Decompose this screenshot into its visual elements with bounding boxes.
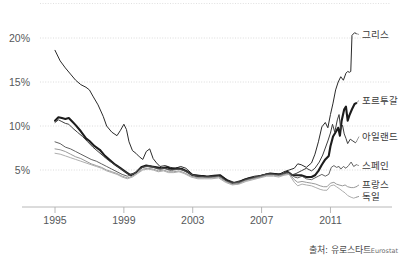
y-tick-label-5: 5% bbox=[15, 164, 30, 176]
series-label-3: 스페인 bbox=[362, 160, 389, 171]
series-label-5: 독일 bbox=[362, 191, 380, 202]
x-tick-label-2007: 2007 bbox=[250, 214, 274, 226]
series-label-2: 아일랜드 bbox=[362, 131, 398, 142]
series-group bbox=[55, 33, 356, 198]
source-note: 출처: 유로스타트Eurostat bbox=[309, 243, 398, 256]
series-leader-3 bbox=[356, 165, 359, 166]
series-leader-2 bbox=[356, 137, 359, 142]
x-tick-label-1999: 1999 bbox=[112, 214, 136, 226]
x-tick-label-2011: 2011 bbox=[319, 214, 342, 226]
series-label-0: 그리스 bbox=[362, 29, 389, 40]
series-label-1: 포르투갈 bbox=[362, 95, 398, 106]
y-tick-label-20: 20% bbox=[9, 32, 30, 44]
x-tick-label-2003: 2003 bbox=[181, 214, 205, 226]
source-label: 출처: 유로스타트 bbox=[309, 245, 371, 255]
series-leader-4 bbox=[356, 185, 359, 187]
y-tick-label-15: 15% bbox=[9, 76, 30, 88]
x-axis-group bbox=[22, 207, 392, 213]
chart-container: 5%10%15%20% 19951999200320072011 그리스포르투갈… bbox=[0, 0, 406, 265]
gridlines-group bbox=[40, 38, 390, 170]
series-labels-group: 그리스포르투갈아일랜드스페인프랑스독일 bbox=[356, 29, 398, 202]
series-line-0 bbox=[55, 33, 356, 183]
y-tick-labels-group: 5%10%15%20% bbox=[9, 32, 30, 176]
line-chart-svg: 5%10%15%20% 19951999200320072011 그리스포르투갈… bbox=[0, 0, 406, 265]
series-label-4: 프랑스 bbox=[362, 179, 389, 190]
series-leader-0 bbox=[356, 34, 359, 35]
x-tick-label-1995: 1995 bbox=[43, 214, 67, 226]
y-tick-label-10: 10% bbox=[9, 120, 30, 132]
series-leader-5 bbox=[356, 196, 359, 197]
x-tick-labels-group: 19951999200320072011 bbox=[43, 214, 342, 226]
series-leader-1 bbox=[356, 100, 359, 103]
source-sublabel: Eurostat bbox=[371, 247, 398, 255]
